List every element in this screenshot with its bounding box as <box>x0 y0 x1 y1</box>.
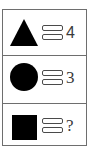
equals-icon <box>42 70 63 86</box>
puzzle-row-square: ? <box>3 103 86 146</box>
square-icon <box>12 115 37 140</box>
circle-icon <box>10 63 38 91</box>
shape-value-puzzle: 4 3 ? <box>2 9 87 146</box>
puzzle-row-circle: 3 <box>3 55 86 103</box>
puzzle-row-triangle: 4 <box>3 10 86 55</box>
equals-bar-bottom <box>42 79 63 85</box>
equals-bar-top <box>42 70 63 76</box>
equals-icon <box>42 25 63 41</box>
row-value: 4 <box>66 24 75 41</box>
equals-icon <box>42 118 63 134</box>
row-value: 3 <box>66 69 75 86</box>
equals-bar-bottom <box>42 34 63 40</box>
equals-bar-bottom <box>42 127 63 133</box>
unknown-value: ? <box>66 117 74 134</box>
equals-bar-top <box>42 25 63 31</box>
equals-bar-top <box>42 118 63 124</box>
triangle-icon <box>10 19 38 46</box>
